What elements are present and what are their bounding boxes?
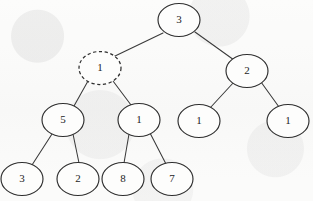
tree-node[interactable]: 1	[79, 52, 121, 85]
tree-node-label: 2	[244, 64, 250, 76]
tree-node[interactable]: 5	[42, 104, 84, 137]
tree-node[interactable]: 3	[158, 4, 200, 37]
tree-edge	[74, 81, 88, 106]
tree-node-label: 3	[176, 13, 182, 25]
tree-node-label: 5	[60, 113, 66, 125]
tree-node-label: 7	[169, 172, 175, 184]
tree-edge	[32, 134, 52, 165]
tree-node[interactable]: 8	[102, 163, 144, 196]
binary-tree-svg: 31251113287	[0, 0, 313, 201]
tree-edge	[124, 134, 129, 163]
tree-node[interactable]: 1	[267, 105, 309, 138]
tree-node-label: 8	[120, 172, 126, 184]
tree-edge	[73, 134, 79, 163]
tree-node[interactable]: 2	[57, 163, 99, 196]
tree-nodes-group: 31251113287	[1, 4, 309, 196]
tree-node-label: 1	[97, 61, 103, 73]
tree-edge	[113, 33, 163, 57]
tree-edge	[150, 133, 166, 164]
tree-node[interactable]: 7	[151, 163, 193, 196]
tree-node-label: 3	[19, 172, 25, 184]
tree-node[interactable]: 1	[118, 104, 160, 137]
tree-edge	[113, 81, 131, 105]
tree-node-label: 1	[136, 113, 142, 125]
tree-edge	[261, 82, 279, 107]
tree-edges-group	[32, 32, 279, 165]
tree-edge	[195, 32, 234, 60]
tree-node-label: 1	[285, 114, 291, 126]
tree-node-label: 1	[196, 114, 202, 126]
tree-diagram-canvas: 31251113287	[0, 0, 313, 201]
tree-node-label: 2	[75, 172, 81, 184]
tree-edge	[210, 82, 234, 108]
tree-node[interactable]: 3	[1, 163, 43, 196]
tree-node[interactable]: 2	[226, 55, 268, 88]
tree-node[interactable]: 1	[178, 105, 220, 138]
